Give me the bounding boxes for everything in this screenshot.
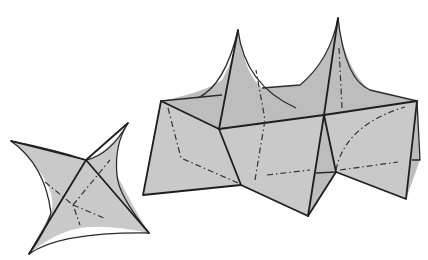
geometric-figure (0, 0, 428, 260)
double-peak-structure (143, 18, 420, 216)
diagram-canvas (0, 0, 428, 260)
star-surface (11, 123, 149, 254)
